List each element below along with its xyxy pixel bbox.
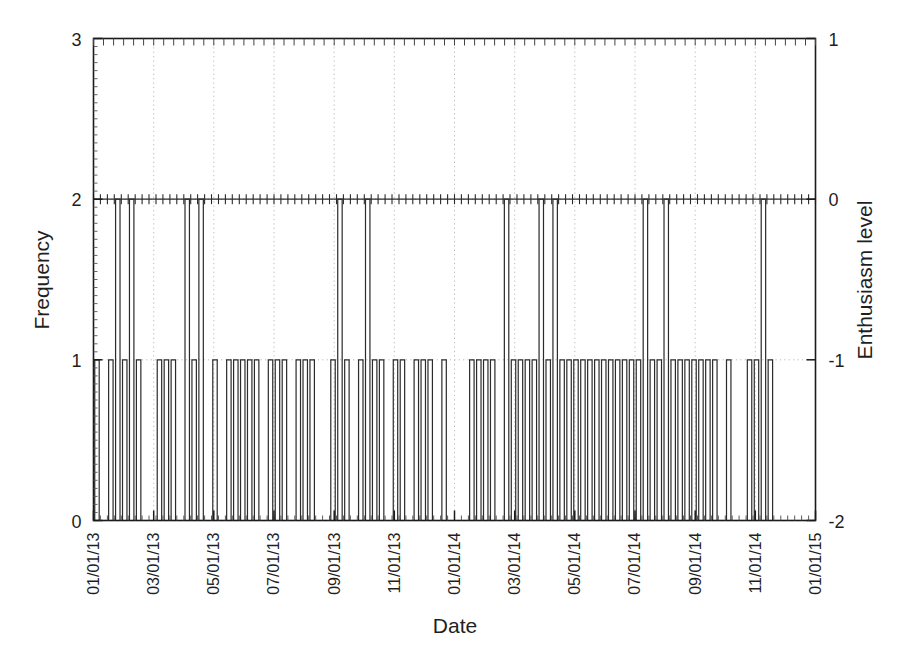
y-axis-title: Frequency bbox=[30, 230, 53, 330]
x-tick-label: 03/01/13 bbox=[145, 532, 162, 594]
y-tick-label: 1 bbox=[71, 351, 81, 371]
x-tick-label: 03/01/14 bbox=[506, 532, 523, 594]
y-tick-label: 3 bbox=[71, 30, 81, 50]
x-tick-label: 09/01/13 bbox=[326, 532, 343, 594]
y2-tick-label: -1 bbox=[829, 351, 845, 371]
y2-tick-label: -2 bbox=[829, 512, 845, 532]
x-axis-title: Date bbox=[433, 614, 477, 637]
y-tick-label: 0 bbox=[71, 512, 81, 532]
x-tick-label: 07/01/13 bbox=[265, 532, 282, 594]
x-tick-label: 11/01/14 bbox=[747, 532, 764, 593]
y2-tick-label: 1 bbox=[829, 30, 839, 50]
x-tick-label: 11/01/13 bbox=[386, 532, 403, 593]
x-tick-label: 07/01/14 bbox=[626, 532, 643, 594]
y-tick-label: 2 bbox=[71, 190, 81, 210]
histogram-chart: 0123 -2-101 01/01/1303/01/1305/01/1307/0… bbox=[0, 0, 913, 662]
x-tick-label: 09/01/14 bbox=[687, 532, 704, 594]
x-tick-label: 01/01/15 bbox=[807, 532, 824, 594]
x-tick-label: 05/01/14 bbox=[566, 532, 583, 594]
x-tick-label: 01/01/13 bbox=[85, 532, 102, 594]
x-tick-label: 01/01/14 bbox=[446, 532, 463, 594]
chart-figure: 0123 -2-101 01/01/1303/01/1305/01/1307/0… bbox=[0, 0, 913, 662]
y2-tick-label: 0 bbox=[829, 190, 839, 210]
x-tick-label: 05/01/13 bbox=[205, 532, 222, 594]
y2-axis-title: Enthusiasm level bbox=[853, 201, 876, 360]
